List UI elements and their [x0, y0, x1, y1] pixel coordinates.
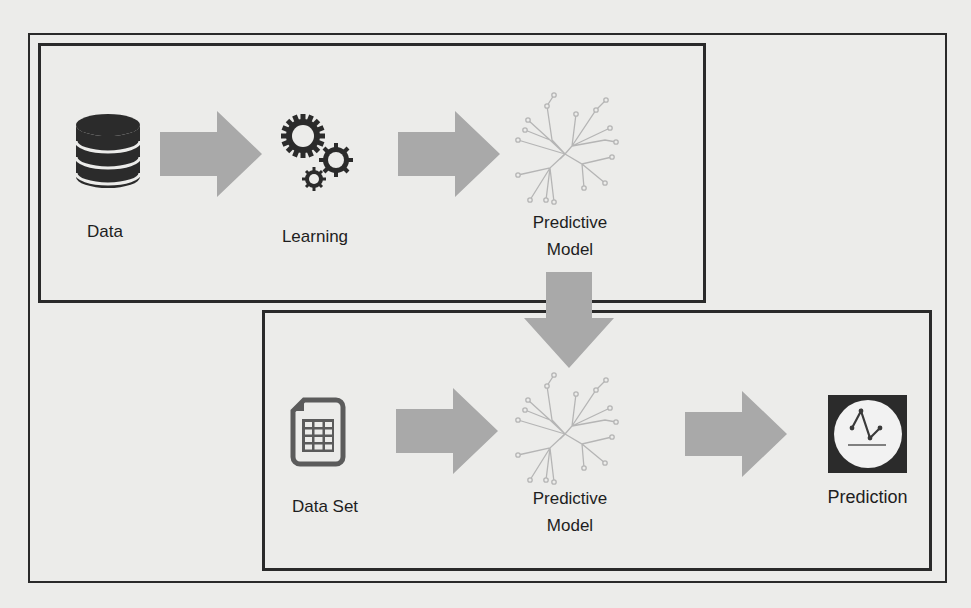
node-label-prediction: Prediction: [805, 486, 930, 508]
line-chart-icon: [828, 395, 907, 473]
arrow-right-icon: [685, 391, 787, 477]
gears-icon: [274, 112, 358, 194]
label-line-1: Predictive: [520, 209, 620, 236]
node-label-learning: Learning: [265, 226, 365, 248]
node-label-predictive-model: Predictive Model: [520, 209, 620, 263]
spreadsheet-file-icon: [290, 397, 346, 467]
arrow-right-icon: [398, 111, 500, 197]
arrow-right-icon: [396, 388, 498, 474]
node-label-data-set: Data Set: [270, 496, 380, 518]
label-line-1: Predictive: [520, 485, 620, 512]
node-label-predictive-model-2: Predictive Model: [520, 485, 620, 539]
tree-network-icon: [510, 90, 620, 210]
node-label-data: Data: [70, 221, 140, 243]
tree-network-icon: [510, 370, 620, 490]
arrow-right-icon: [160, 111, 262, 197]
arrow-down-icon: [524, 272, 614, 368]
database-icon: [74, 113, 142, 189]
label-line-2: Model: [520, 512, 620, 539]
label-line-2: Model: [520, 236, 620, 263]
